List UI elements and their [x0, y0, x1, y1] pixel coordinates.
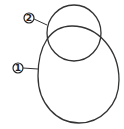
diagram-canvas: 2 1 [0, 0, 124, 129]
label-2-leader-line [34, 19, 47, 25]
label-1-text: 1 [15, 63, 21, 73]
label-1-leader-line [23, 68, 38, 69]
label-1: 1 [13, 63, 38, 73]
large-oval-shape [38, 26, 119, 123]
small-circle-shape [47, 5, 101, 61]
label-2-text: 2 [26, 13, 32, 23]
label-2: 2 [24, 13, 47, 25]
